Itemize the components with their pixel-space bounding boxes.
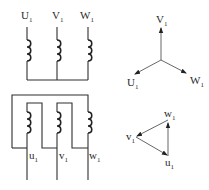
winding-V bbox=[57, 27, 61, 80]
phasor-label-v1: v1 bbox=[126, 130, 136, 145]
terminal-label-W1: W1 bbox=[80, 9, 94, 24]
coil-icon bbox=[27, 112, 31, 133]
phasor-label-U1: U1 bbox=[127, 76, 139, 91]
arrow-icon bbox=[135, 60, 161, 74]
star-phasor: V1 U1 W1 bbox=[127, 13, 204, 91]
arrow-icon bbox=[136, 137, 167, 155]
phasor-label-w1: w1 bbox=[164, 107, 176, 122]
phasor-label-u1: u1 bbox=[165, 156, 175, 171]
delta-connection: u1 v1 w1 bbox=[12, 95, 101, 180]
coil-icon bbox=[88, 40, 92, 61]
coil-icon bbox=[57, 112, 61, 133]
star-connection: U1 V1 W1 bbox=[21, 9, 94, 80]
transformer-diagram: U1 V1 W1 bbox=[0, 0, 209, 190]
coil-icon bbox=[27, 40, 31, 61]
terminal-label-V1: V1 bbox=[52, 9, 64, 24]
coil-icon bbox=[57, 40, 61, 61]
terminal-label-U1: U1 bbox=[21, 9, 33, 24]
coil-icon bbox=[88, 112, 92, 133]
winding-W bbox=[88, 27, 92, 80]
terminal-label-v1: v1 bbox=[59, 149, 69, 164]
phasor-label-W1: W1 bbox=[190, 74, 204, 89]
phasor-label-V1: V1 bbox=[156, 13, 168, 28]
arrow-icon bbox=[137, 120, 168, 136]
terminal-label-w1: w1 bbox=[89, 149, 101, 164]
terminal-label-u1: u1 bbox=[29, 149, 39, 164]
winding-U bbox=[27, 27, 31, 80]
delta-phasor: w1 v1 u1 bbox=[126, 107, 176, 171]
arrow-icon bbox=[161, 60, 186, 73]
